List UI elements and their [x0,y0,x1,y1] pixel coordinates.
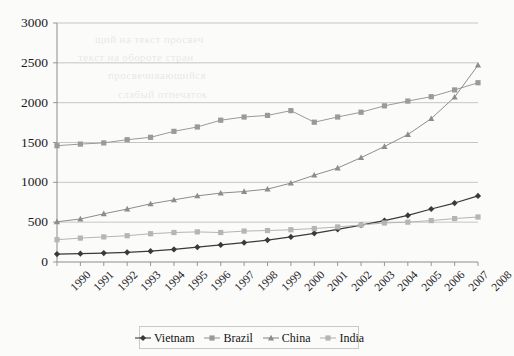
data-point-marker [265,113,270,118]
data-point-marker [101,250,107,256]
data-point-marker [288,108,293,113]
data-point-marker [428,206,434,212]
data-point-marker [381,143,387,149]
series-vietnam [54,193,481,257]
data-point-marker [312,120,317,125]
data-point-marker [475,214,480,219]
data-point-marker [218,118,223,123]
y-axis-tick-label: 3000 [4,16,48,30]
data-point-marker [148,231,153,236]
data-point-marker [124,249,130,255]
data-point-marker [148,135,153,140]
data-point-marker [171,230,176,235]
legend-marker-icon [203,332,221,344]
data-point-marker [382,220,387,225]
data-point-marker [77,251,83,257]
y-axis-tick-label: 0 [4,255,48,269]
data-point-marker [54,237,59,242]
data-point-marker [335,114,340,119]
legend-item-label: Vietnam [154,332,195,344]
legend-item-label: India [339,332,364,344]
series-line [57,196,478,254]
legend-item-label: China [282,332,311,344]
data-point-marker [452,216,457,221]
data-point-marker [405,212,411,218]
y-axis-tick-label: 1500 [4,136,48,150]
data-point-marker [54,251,60,257]
data-point-marker [265,228,270,233]
y-axis-tick-label: 1000 [4,175,48,189]
data-point-marker [311,230,317,236]
series-line [57,65,478,222]
data-point-marker [358,110,363,115]
data-point-marker [326,335,331,340]
data-point-marker [54,143,59,148]
legend-item-brazil[interactable]: Brazil [203,332,252,344]
data-point-marker [241,240,247,246]
data-point-marker [171,129,176,134]
data-point-marker [218,242,224,248]
y-axis-tick-label: 2000 [4,96,48,110]
data-point-marker [195,124,200,129]
chart-legend: VietnamBrazilChinaIndia [139,326,359,349]
legend-marker-icon [134,332,152,344]
y-axis-tick-label: 500 [4,215,48,229]
data-point-marker [382,103,387,108]
data-point-marker [218,230,223,235]
data-point-marker [452,87,457,92]
data-point-marker [171,246,177,252]
data-point-marker [195,229,200,234]
data-point-marker [335,224,340,229]
data-point-marker [475,80,480,85]
legend-item-india[interactable]: India [319,332,364,344]
data-point-marker [78,141,83,146]
data-point-marker [429,218,434,223]
data-point-marker [210,335,215,340]
data-point-marker [78,236,83,241]
data-point-marker [475,193,481,199]
data-point-marker [452,200,458,206]
legend-marker-icon [262,332,280,344]
legend-item-china[interactable]: China [262,332,311,344]
data-point-marker [405,98,410,103]
data-point-marker [264,237,270,243]
data-point-marker [405,131,411,137]
data-point-marker [288,227,293,232]
series-china [54,62,481,224]
data-point-marker [101,140,106,145]
data-point-marker [288,234,294,240]
y-axis-tick-label: 2500 [4,56,48,70]
legend-item-vietnam[interactable]: Vietnam [134,332,195,344]
data-point-marker [405,220,410,225]
data-point-marker [147,248,153,254]
data-point-marker [125,137,130,142]
legend-marker-icon [319,332,337,344]
series-brazil [54,80,480,148]
data-point-marker [125,233,130,238]
data-point-marker [312,226,317,231]
data-point-marker [358,154,364,160]
data-point-marker [358,222,363,227]
legend-item-label: Brazil [223,332,252,344]
data-point-marker [242,114,247,119]
data-point-marker [429,94,434,99]
data-point-marker [242,228,247,233]
data-point-marker [335,165,341,171]
data-point-marker [101,234,106,239]
data-point-marker [194,244,200,250]
data-point-marker [140,334,146,340]
